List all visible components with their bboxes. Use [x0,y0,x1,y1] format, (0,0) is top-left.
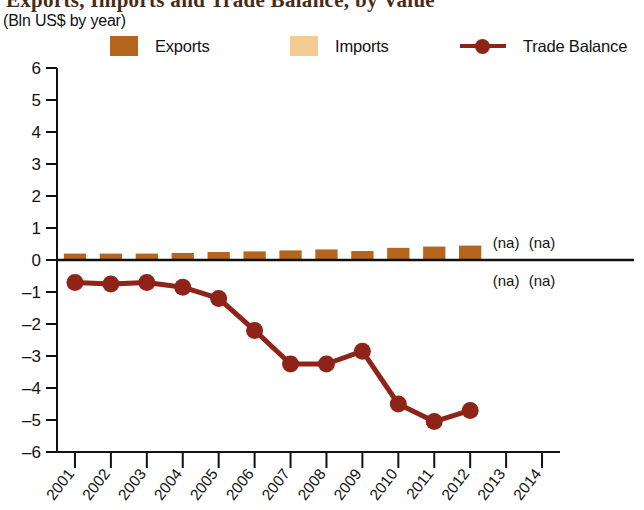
x-tick-label-2007: 2007 [258,465,293,503]
x-tick-label-group: 2002 [79,465,114,503]
x-tick-label-2006: 2006 [222,465,257,503]
bar-exports-2006 [243,251,265,260]
trade-balance-point-2010 [390,396,407,413]
y-tick-label: –6 [22,443,41,462]
x-tick-label-group: 2001 [43,465,78,503]
bar-exports-2007 [279,250,301,260]
chart-page: Exports, Imports and Trade Balance, by V… [0,0,644,510]
legend-swatch-imports [290,36,318,56]
page-subtitle: (Bln US$ by year) [3,12,126,30]
x-tick-label-group: 2009 [330,465,365,503]
na-annotation-2013-above: (na) [493,234,520,251]
chart-legend: Exports Imports Trade Balance [110,34,640,58]
na-annotation-2014-below: (na) [529,272,556,289]
legend-swatch-exports [110,36,138,56]
legend-label-imports: Imports [335,37,389,56]
x-tick-label-2013: 2013 [474,465,509,503]
trade-balance-point-2002 [102,276,119,293]
y-tick-label: –1 [22,283,41,302]
trade-balance-point-2001 [66,274,83,291]
x-tick-label-group: 2007 [258,465,293,503]
x-tick-label-2004: 2004 [150,465,185,503]
x-tick-label-2003: 2003 [115,465,150,503]
legend-label-trade-balance: Trade Balance [523,37,627,56]
y-tick-label: –4 [22,379,41,398]
x-tick-label-2009: 2009 [330,465,365,503]
x-tick-label-2002: 2002 [79,465,114,503]
legend-swatch-trade-balance [460,36,506,56]
y-tick-label: –5 [22,411,41,430]
bar-exports-2008 [315,249,337,260]
y-tick-label: –3 [22,347,41,366]
na-annotation-2014-above: (na) [529,234,556,251]
y-tick-label: 3 [32,155,41,174]
x-tick-label-2001: 2001 [43,465,78,503]
legend-item-imports[interactable]: Imports [290,34,389,58]
x-tick-label-group: 2013 [474,465,509,503]
y-tick-label: 0 [32,251,41,270]
x-tick-label-2012: 2012 [438,465,473,503]
trade-balance-point-2004 [174,279,191,296]
bar-exports-2009 [351,251,373,260]
bar-exports-2010 [387,248,409,260]
x-tick-label-group: 2012 [438,465,473,503]
trade-balance-point-2006 [246,322,263,339]
x-tick-label-group: 2008 [294,465,329,503]
x-tick-label-group: 2010 [366,465,401,503]
trade-balance-point-2007 [282,356,299,373]
trade-balance-point-2003 [138,274,155,291]
x-tick-label-group: 2003 [115,465,150,503]
x-tick-label-group: 2004 [150,465,185,503]
bar-exports-2012 [459,246,481,260]
x-tick-label-2011: 2011 [403,465,437,502]
x-tick-label-group: 2011 [403,465,437,502]
x-tick-label-2014: 2014 [510,465,545,503]
x-tick-label-2008: 2008 [294,465,329,503]
y-tick-label: 6 [32,60,41,78]
trade-balance-point-2005 [210,290,227,307]
chart-canvas: 6543210–1–2–3–4–5–6200120022003200420052… [0,60,644,510]
bar-exports-2005 [208,252,230,260]
trade-balance-point-2008 [318,356,335,373]
legend-item-trade-balance[interactable]: Trade Balance [460,34,627,58]
x-tick-label-group: 2014 [510,465,545,503]
chart-plot-area: 6543210–1–2–3–4–5–6200120022003200420052… [0,60,644,510]
trade-balance-point-2009 [354,343,371,360]
trade-balance-point-2012 [462,402,479,419]
y-tick-label: 4 [32,123,41,142]
y-tick-label: 5 [32,91,41,110]
y-tick-label: –2 [22,315,41,334]
y-tick-label: 2 [32,187,41,206]
bar-exports-2011 [423,247,445,260]
x-tick-label-2010: 2010 [366,465,401,503]
na-annotation-2013-below: (na) [493,272,520,289]
trade-balance-point-2011 [426,413,443,430]
x-tick-label-group: 2005 [186,465,221,503]
x-tick-label-group: 2006 [222,465,257,503]
legend-label-exports: Exports [155,37,210,56]
y-tick-label: 1 [32,219,41,238]
legend-item-exports[interactable]: Exports [110,34,210,58]
x-tick-label-2005: 2005 [186,465,221,503]
trade-balance-line [75,282,470,421]
